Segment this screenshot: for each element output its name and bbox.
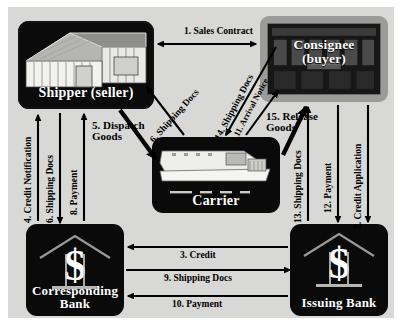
flow-label-2: 2. Credit Application [354,144,364,229]
corresponding-bank-label: Corresponding Bank [26,284,124,311]
flow-label-5: 5. Dispatch Goods [92,120,150,143]
flow-label-7: 6. Shipping Docs [46,155,56,223]
shipper-label: Shipper (seller) [18,86,154,100]
flow-label-15: 15. Release Goods [266,111,328,134]
issuing-bank-label: Issuing Bank [290,296,388,309]
diagram-canvas: Shipper (seller) [8,7,394,318]
carrier-label: Carrier [152,194,280,208]
flow-label-13: 13. Shipping Docs [294,150,304,223]
flow-label-4: 4. Credit Notification [24,137,34,223]
consignee-label: Consignee (buyer) [260,38,388,66]
flow-label-8: 8. Payment [70,169,80,214]
flow-label-12: 12. Payment [324,163,334,213]
flow-label-10: 10. Payment [172,300,222,310]
flow-label-3: 3. Credit [180,251,216,261]
flow-label-1: 1. Sales Contract [184,27,253,37]
flow-label-9: 9. Shipping Docs [164,274,232,284]
